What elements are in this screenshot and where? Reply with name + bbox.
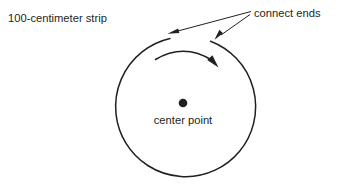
leader-arrow-left-end-head	[168, 28, 180, 33]
figure-container: 100-centimeter strip connect ends center…	[0, 0, 339, 189]
diagram-canvas: 100-centimeter strip connect ends center…	[0, 0, 339, 189]
clockwise-rotation-arrow-shaft	[156, 51, 213, 60]
connect-ends-label: connect ends	[254, 7, 321, 19]
strip-circle-arc	[116, 38, 256, 176]
clockwise-rotation-arrow-head	[207, 55, 218, 67]
center-point-label: center point	[154, 114, 213, 126]
strip-label: 100-centimeter strip	[8, 12, 107, 24]
leader-arrow-right-end-shaft	[221, 15, 250, 36]
center-point-dot	[179, 99, 188, 108]
